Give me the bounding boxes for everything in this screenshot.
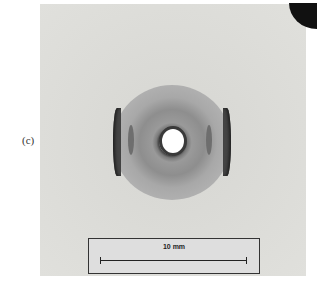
inner-arc-left [128, 125, 134, 155]
scale-bar-box: 10 mm [88, 238, 260, 274]
inner-arc-right [206, 125, 212, 155]
scale-bar [100, 260, 247, 261]
outer-arc-left [113, 108, 121, 176]
outer-arc-right [223, 108, 231, 176]
beam-stop-hole [159, 126, 187, 156]
scale-bar-label: 10 mm [89, 243, 259, 250]
panel-label: (c) [22, 134, 34, 146]
